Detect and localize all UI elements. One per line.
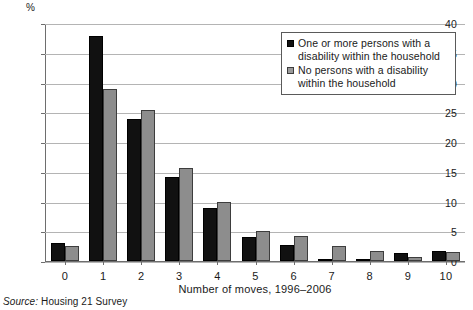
bar-group: 1: [84, 24, 122, 261]
y-tick-mark: [41, 173, 45, 174]
x-tick-mark: [370, 261, 371, 265]
x-tick-label: 8: [351, 270, 389, 282]
bar-group: 4: [198, 24, 236, 261]
bar-series-1: [332, 246, 346, 261]
bar-series-0: [356, 259, 370, 261]
bar-series-0: [89, 36, 103, 261]
legend-item-0: One or more persons with adisability wit…: [287, 37, 450, 62]
bar-series-1: [408, 257, 422, 261]
bar-series-1: [294, 236, 308, 261]
x-tick-label: 7: [313, 270, 351, 282]
legend-swatch-series-0-icon: [287, 40, 294, 47]
bar-series-0: [51, 243, 65, 261]
bar-series-0: [165, 177, 179, 261]
y-axis-unit-label: %: [26, 2, 35, 13]
bar-series-1: [141, 110, 155, 261]
bar-group: 0: [46, 24, 84, 261]
bar-series-0: [203, 208, 217, 261]
source-text: Housing 21 Survey: [41, 296, 127, 307]
chart-figure: % 0510152025303540 012345678910 One or m…: [0, 0, 473, 310]
bar-series-1: [370, 251, 384, 261]
x-tick-mark: [65, 261, 66, 265]
x-tick-label: 10: [427, 270, 465, 282]
legend-label-series-1: No persons with a disabilitywithin the h…: [298, 64, 428, 89]
bar-series-0: [127, 119, 141, 261]
bar-series-1: [256, 231, 270, 261]
y-tick-mark: [41, 262, 45, 263]
x-tick-mark: [141, 261, 142, 265]
y-tick-mark: [41, 54, 45, 55]
x-tick-label: 1: [84, 270, 122, 282]
bar-series-1: [103, 89, 117, 261]
x-tick-mark: [256, 261, 257, 265]
y-tick-mark: [41, 232, 45, 233]
source-label: Source:: [3, 296, 38, 307]
bar-group: 3: [160, 24, 198, 261]
x-tick-label: 4: [198, 270, 236, 282]
bar-series-0: [432, 251, 446, 261]
x-tick-mark: [408, 261, 409, 265]
chart-legend: One or more persons with adisability wit…: [281, 32, 456, 95]
y-tick-mark: [41, 113, 45, 114]
x-tick-label: 5: [236, 270, 274, 282]
legend-label-series-0: One or more persons with adisability wit…: [298, 37, 440, 62]
bar-series-1: [65, 246, 79, 261]
x-tick-label: 6: [275, 270, 313, 282]
x-tick-mark: [217, 261, 218, 265]
x-tick-label: 9: [389, 270, 427, 282]
x-tick-mark: [294, 261, 295, 265]
y-tick-mark: [41, 24, 45, 25]
source-note: Source: Housing 21 Survey: [3, 296, 127, 307]
bar-series-1: [179, 168, 193, 261]
y-tick-mark: [41, 84, 45, 85]
bar-series-1: [446, 252, 460, 261]
bar-group: 5: [236, 24, 274, 261]
bar-series-0: [318, 259, 332, 261]
bar-series-1: [217, 202, 231, 261]
x-tick-mark: [446, 261, 447, 265]
x-tick-mark: [103, 261, 104, 265]
x-tick-label: 2: [122, 270, 160, 282]
y-tick-mark: [41, 203, 45, 204]
legend-item-1: No persons with a disabilitywithin the h…: [287, 64, 450, 89]
y-tick-mark: [41, 143, 45, 144]
x-axis-title: Number of moves, 1996–2006: [45, 283, 465, 295]
x-tick-mark: [332, 261, 333, 265]
x-tick-label: 3: [160, 270, 198, 282]
bar-group: 2: [122, 24, 160, 261]
legend-swatch-series-1-icon: [287, 67, 294, 74]
x-tick-mark: [179, 261, 180, 265]
bar-series-0: [242, 237, 256, 261]
x-tick-label: 0: [46, 270, 84, 282]
bar-series-0: [394, 253, 408, 261]
bar-series-0: [280, 245, 294, 261]
